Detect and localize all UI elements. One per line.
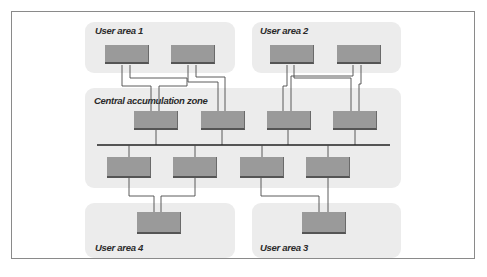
- cz-bottom-2: [173, 157, 217, 178]
- ua1-node-2: [171, 45, 215, 64]
- wiring: [0, 0, 487, 277]
- cz-top-3: [267, 111, 311, 130]
- ua4-node-1: [137, 212, 181, 234]
- ua2-node-2: [337, 45, 381, 64]
- cz-top-2: [201, 111, 245, 130]
- cz-bottom-1: [107, 157, 151, 178]
- ua1-node-1: [105, 45, 149, 64]
- cz-top-4: [333, 111, 377, 130]
- cz-top-1: [134, 111, 178, 130]
- cz-bottom-4: [306, 157, 350, 178]
- ua3-node-1: [302, 212, 346, 234]
- cz-bottom-3: [240, 157, 284, 178]
- ua2-node-1: [270, 45, 314, 64]
